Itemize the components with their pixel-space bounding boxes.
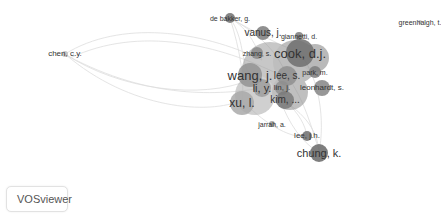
vosviewer-logo-badge[interactable]: VOSviewer (6, 186, 68, 212)
node-label[interactable]: li, y. (253, 83, 272, 94)
node-label[interactable]: kim, ... (270, 95, 299, 105)
node-label[interactable]: vanus, j. (244, 28, 281, 38)
node-label[interactable]: lee, j.h. (294, 132, 320, 140)
node-label[interactable]: chen, c.y. (48, 50, 82, 58)
vosviewer-logo-text: VOSviewer (17, 193, 72, 205)
node-label[interactable]: greenhalgh, t. (399, 19, 441, 26)
node-label[interactable]: wang, j. (228, 69, 273, 82)
node-label[interactable]: park, m. (302, 69, 327, 76)
node-label[interactable]: lee, s. (274, 71, 301, 81)
node-label[interactable]: lin, j. (274, 84, 290, 92)
node-label[interactable]: leonhardt, s. (300, 84, 344, 92)
node-label[interactable]: xu, l. (229, 97, 254, 109)
node-label[interactable]: chung, k. (297, 148, 342, 159)
node-label[interactable]: cook, d.j. (274, 47, 326, 60)
node-label[interactable]: jarrah, a. (258, 121, 286, 128)
node-label[interactable]: giannetti, d. (281, 33, 317, 40)
node-label[interactable]: de bakker, g. (210, 15, 250, 22)
node-label[interactable]: zhang, s. (243, 50, 271, 57)
